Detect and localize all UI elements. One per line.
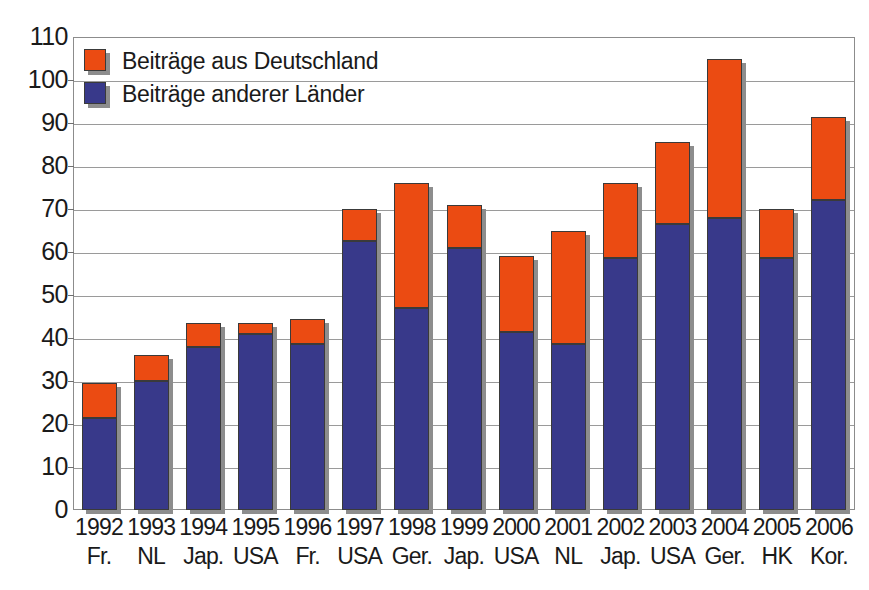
legend-swatch-germany	[84, 49, 106, 71]
x-tick-year: 2004	[695, 513, 755, 542]
legend-label: Beiträge anderer Länder	[122, 82, 364, 107]
y-tick-label: 80	[4, 153, 68, 178]
y-tick-label: 0	[4, 497, 68, 522]
x-tick-country: Ger.	[382, 542, 442, 571]
x-tick-label: 2002Jap.	[590, 513, 650, 571]
legend-swatch-wrap	[84, 49, 110, 75]
bar-segment-germany[interactable]	[811, 117, 846, 201]
x-tick-year: 1992	[69, 513, 129, 542]
legend-swatch-wrap	[84, 82, 110, 108]
bar-segment-germany[interactable]	[499, 256, 534, 331]
bar-segment-other-countries[interactable]	[655, 224, 690, 510]
bar-segment-other-countries[interactable]	[186, 347, 221, 510]
x-tick-country: Ger.	[695, 542, 755, 571]
bar-segment-other-countries[interactable]	[290, 344, 325, 510]
stacked-bar-chart: 0102030405060708090100110 1992Fr.1993NL1…	[0, 0, 869, 590]
x-tick-year: 2000	[486, 513, 546, 542]
x-tick-country: Kor.	[799, 542, 859, 571]
legend-swatch-other-countries	[84, 82, 106, 104]
bar-group[interactable]	[759, 209, 794, 510]
x-tick-country: USA	[225, 542, 285, 571]
x-tick-label: 1997USA	[330, 513, 390, 571]
y-tick-label: 90	[4, 110, 68, 135]
x-tick-country: USA	[486, 542, 546, 571]
bar-segment-other-countries[interactable]	[707, 218, 742, 510]
bar-segment-other-countries[interactable]	[447, 248, 482, 510]
bar-group[interactable]	[499, 256, 534, 510]
bar-segment-germany[interactable]	[759, 209, 794, 258]
x-tick-year: 1993	[121, 513, 181, 542]
bar-group[interactable]	[811, 117, 846, 510]
x-tick-country: NL	[538, 542, 598, 571]
bar-segment-other-countries[interactable]	[134, 381, 169, 510]
x-tick-year: 2002	[590, 513, 650, 542]
bar-segment-germany[interactable]	[290, 319, 325, 345]
bar-segment-other-countries[interactable]	[342, 241, 377, 510]
x-tick-year: 1998	[382, 513, 442, 542]
bar-group[interactable]	[551, 231, 586, 511]
x-tick-year: 2006	[799, 513, 859, 542]
bar-group[interactable]	[342, 209, 377, 510]
bar-segment-germany[interactable]	[186, 323, 221, 347]
bar-group[interactable]	[707, 59, 742, 511]
x-tick-country: Fr.	[69, 542, 129, 571]
y-tick-label: 100	[4, 67, 68, 92]
bar-segment-germany[interactable]	[603, 183, 638, 258]
y-tick-label: 30	[4, 368, 68, 393]
bar-segment-germany[interactable]	[447, 205, 482, 248]
bar-group[interactable]	[290, 319, 325, 510]
y-tick-label: 40	[4, 325, 68, 350]
y-tick-label: 60	[4, 239, 68, 264]
bar-group[interactable]	[603, 183, 638, 510]
bar-segment-other-countries[interactable]	[394, 308, 429, 510]
x-tick-label: 1996Fr.	[278, 513, 338, 571]
bar-segment-other-countries[interactable]	[499, 332, 534, 510]
bar-group[interactable]	[238, 323, 273, 510]
x-tick-year: 1995	[225, 513, 285, 542]
bar-segment-germany[interactable]	[394, 183, 429, 308]
x-tick-country: Fr.	[278, 542, 338, 571]
y-tick-label: 110	[4, 24, 68, 49]
bar-segment-germany[interactable]	[134, 355, 169, 381]
bar-group[interactable]	[186, 323, 221, 510]
x-tick-label: 2000USA	[486, 513, 546, 571]
x-tick-label: 1999Jap.	[434, 513, 494, 571]
x-tick-year: 1997	[330, 513, 390, 542]
y-tick-label: 20	[4, 411, 68, 436]
bar-segment-germany[interactable]	[707, 59, 742, 218]
bar-segment-other-countries[interactable]	[603, 258, 638, 510]
x-tick-year: 2005	[747, 513, 807, 542]
bar-segment-germany[interactable]	[342, 209, 377, 241]
bar-segment-germany[interactable]	[551, 231, 586, 345]
bar-group[interactable]	[394, 183, 429, 510]
y-axis: 0102030405060708090100110	[0, 37, 68, 510]
bar-segment-germany[interactable]	[655, 142, 690, 224]
bar-segment-other-countries[interactable]	[759, 258, 794, 510]
x-tick-country: Jap.	[173, 542, 233, 571]
x-tick-label: 2004Ger.	[695, 513, 755, 571]
bar-group[interactable]	[82, 383, 117, 510]
x-tick-country: Jap.	[590, 542, 650, 571]
x-tick-country: USA	[642, 542, 702, 571]
bar-group[interactable]	[134, 355, 169, 510]
x-tick-label: 1994Jap.	[173, 513, 233, 571]
y-tick-label: 70	[4, 196, 68, 221]
bar-segment-other-countries[interactable]	[82, 418, 117, 510]
x-tick-year: 2003	[642, 513, 702, 542]
bar-group[interactable]	[447, 205, 482, 510]
bar-segment-other-countries[interactable]	[551, 344, 586, 510]
x-tick-country: USA	[330, 542, 390, 571]
bar-segment-other-countries[interactable]	[238, 334, 273, 510]
x-tick-label: 2003USA	[642, 513, 702, 571]
x-tick-label: 1998Ger.	[382, 513, 442, 571]
x-tick-country: NL	[121, 542, 181, 571]
bar-segment-germany[interactable]	[82, 383, 117, 417]
legend-label: Beiträge aus Deutschland	[122, 49, 378, 74]
bar-segment-other-countries[interactable]	[811, 200, 846, 510]
x-tick-year: 1994	[173, 513, 233, 542]
bar-segment-germany[interactable]	[238, 323, 273, 334]
legend-item[interactable]: Beiträge aus Deutschland	[84, 45, 374, 78]
bar-group[interactable]	[655, 142, 690, 510]
legend-item[interactable]: Beiträge anderer Länder	[84, 78, 374, 111]
x-tick-country: Jap.	[434, 542, 494, 571]
